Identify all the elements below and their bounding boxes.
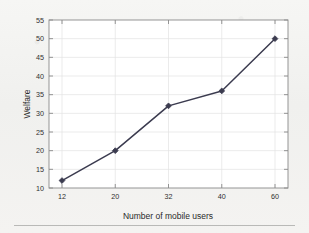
y-tick-label: 55 bbox=[36, 16, 44, 25]
x-tick-label: 40 bbox=[218, 192, 226, 201]
chart-figure: 10152025303540455055 1220324060 Number o… bbox=[0, 0, 309, 233]
y-tick-label: 25 bbox=[36, 128, 44, 137]
y-tick-label: 40 bbox=[36, 72, 44, 81]
y-axis-title: Welfare bbox=[22, 89, 32, 118]
y-tick-label: 30 bbox=[36, 109, 44, 118]
y-tick-label: 45 bbox=[36, 53, 44, 62]
x-tick-label: 32 bbox=[165, 192, 173, 201]
y-tick-label: 15 bbox=[36, 165, 44, 174]
chart-canvas: 10152025303540455055 1220324060 Number o… bbox=[0, 0, 309, 233]
y-tick-label: 50 bbox=[36, 34, 44, 43]
y-tick-label: 35 bbox=[36, 90, 44, 99]
bottom-rule bbox=[14, 225, 295, 226]
y-axis-tick-labels: 10152025303540455055 bbox=[36, 16, 44, 193]
x-tick-label: 20 bbox=[111, 192, 119, 201]
y-tick-label: 20 bbox=[36, 146, 44, 155]
x-axis-title: Number of mobile users bbox=[123, 211, 213, 221]
y-tick-label: 10 bbox=[36, 184, 44, 193]
x-axis-tick-labels: 1220324060 bbox=[58, 192, 279, 201]
x-tick-label: 12 bbox=[58, 192, 66, 201]
x-tick-label: 60 bbox=[271, 192, 279, 201]
